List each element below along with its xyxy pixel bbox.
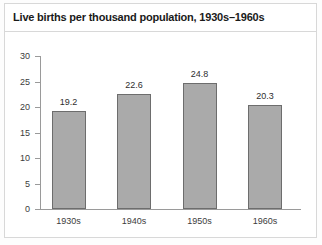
x-axis-line (40, 209, 301, 210)
bar (117, 94, 151, 209)
bar-value-label: 22.6 (109, 81, 159, 90)
bar (52, 111, 86, 209)
x-tick-label: 1950s (170, 216, 230, 226)
chart-figure: Live births per thousand population, 193… (0, 0, 322, 245)
bar-value-label: 24.8 (175, 70, 225, 79)
bar (183, 83, 217, 209)
bar-value-label: 19.2 (44, 98, 94, 107)
y-tick-label: 20 (20, 103, 30, 112)
y-tick-label: 5 (25, 180, 30, 189)
bar-value-label: 20.3 (240, 92, 290, 101)
y-tick-mark (35, 107, 40, 108)
y-tick-mark (35, 133, 40, 134)
x-tick-label: 1940s (104, 216, 164, 226)
bar (248, 105, 282, 209)
chart-title: Live births per thousand population, 193… (13, 11, 264, 23)
y-tick-label: 30 (20, 52, 30, 61)
y-tick-mark (35, 184, 40, 185)
y-tick-label: 0 (25, 205, 30, 214)
title-divider (5, 31, 316, 32)
y-tick-mark (35, 209, 40, 210)
y-tick-mark (35, 82, 40, 83)
y-axis-line (40, 56, 41, 210)
y-tick-mark (35, 56, 40, 57)
y-tick-mark (35, 158, 40, 159)
x-tick-label: 1930s (39, 216, 99, 226)
y-tick-label: 25 (20, 78, 30, 87)
y-tick-label: 15 (20, 129, 30, 138)
y-tick-label: 10 (20, 154, 30, 163)
x-tick-label: 1960s (235, 216, 295, 226)
